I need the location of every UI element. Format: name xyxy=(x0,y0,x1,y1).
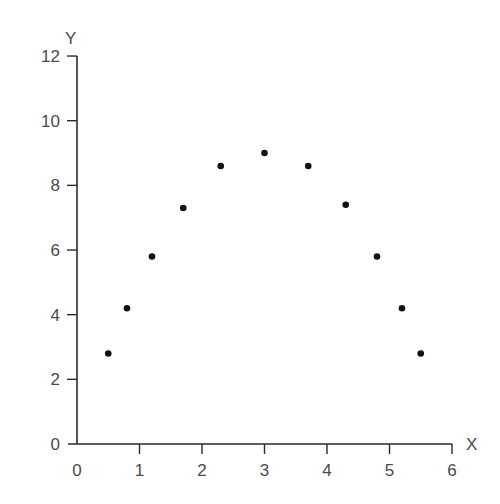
data-point xyxy=(124,305,131,312)
y-tick-label: 12 xyxy=(41,47,60,66)
y-tick-label: 6 xyxy=(51,241,60,260)
axes: 0123456 024681012 X Y xyxy=(41,29,477,480)
data-point xyxy=(261,150,268,157)
x-tick-label: 2 xyxy=(197,461,206,480)
data-point xyxy=(105,350,112,357)
data-point xyxy=(217,163,224,170)
x-axis-ticks: 0123456 xyxy=(72,444,456,480)
y-tick-label: 2 xyxy=(51,370,60,389)
data-point xyxy=(180,205,187,212)
data-point xyxy=(374,253,381,260)
x-tick-label: 3 xyxy=(260,461,269,480)
x-tick-label: 6 xyxy=(447,461,456,480)
data-points xyxy=(105,150,424,357)
x-tick-label: 5 xyxy=(385,461,394,480)
x-tick-label: 4 xyxy=(322,461,331,480)
data-point xyxy=(149,253,156,260)
y-tick-label: 4 xyxy=(51,306,60,325)
x-tick-label: 1 xyxy=(135,461,144,480)
x-axis-title: X xyxy=(466,435,477,454)
data-point xyxy=(417,350,424,357)
y-tick-label: 0 xyxy=(51,435,60,454)
y-tick-label: 8 xyxy=(51,176,60,195)
y-axis-title: Y xyxy=(65,29,76,48)
y-axis-ticks: 024681012 xyxy=(41,47,77,454)
x-tick-label: 0 xyxy=(72,461,81,480)
scatter-chart: 0123456 024681012 X Y xyxy=(0,0,500,504)
data-point xyxy=(305,163,312,170)
data-point xyxy=(399,305,406,312)
data-point xyxy=(342,201,349,208)
y-tick-label: 10 xyxy=(41,112,60,131)
